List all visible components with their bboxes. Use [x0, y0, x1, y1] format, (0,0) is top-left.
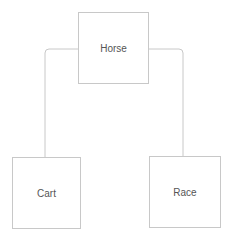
node-race[interactable]: Race — [149, 156, 221, 228]
diagram-canvas: Horse Cart Race — [0, 0, 235, 244]
node-horse[interactable]: Horse — [78, 12, 149, 84]
node-label: Race — [173, 187, 196, 198]
node-cart[interactable]: Cart — [12, 157, 81, 229]
edge-horse-cart — [45, 49, 78, 157]
edge-horse-race — [149, 49, 183, 156]
node-label: Horse — [100, 43, 127, 54]
node-label: Cart — [37, 188, 56, 199]
